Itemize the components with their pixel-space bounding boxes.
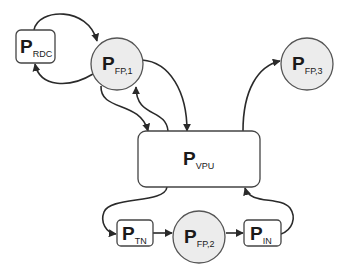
process-diagram: PRDC PFP,1 PFP,3 PVPU PTN PFP,2 PIN — [0, 0, 347, 275]
edge-fp1-to-vpu-left — [101, 86, 148, 131]
node-vpu: PVPU — [138, 131, 260, 187]
node-fp3: PFP,3 — [281, 38, 333, 90]
node-rdc: PRDC — [16, 30, 55, 63]
edge-vpu-to-fp3 — [243, 61, 280, 131]
edge-fp1-to-rdc — [35, 64, 93, 83]
node-fp2: PFP,2 — [173, 211, 225, 263]
node-fp1: PFP,1 — [91, 38, 143, 90]
edge-vpu-to-fp1 — [136, 87, 168, 131]
node-in: PIN — [244, 220, 281, 246]
node-tn: PTN — [117, 220, 153, 246]
